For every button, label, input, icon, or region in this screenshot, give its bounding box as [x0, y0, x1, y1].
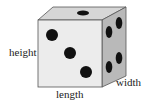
right-pip: [116, 17, 123, 29]
width-label: width: [116, 76, 142, 88]
front-pip: [46, 29, 58, 41]
front-pip: [64, 47, 76, 59]
top-pip: [77, 10, 89, 15]
die-diagram: height length width: [0, 0, 151, 107]
length-label: length: [56, 88, 84, 100]
front-pip: [80, 66, 92, 78]
right-pip: [106, 61, 113, 73]
height-label: height: [9, 46, 37, 58]
right-pip: [116, 52, 123, 64]
right-pip: [106, 26, 113, 38]
die-right-face: [102, 7, 126, 87]
